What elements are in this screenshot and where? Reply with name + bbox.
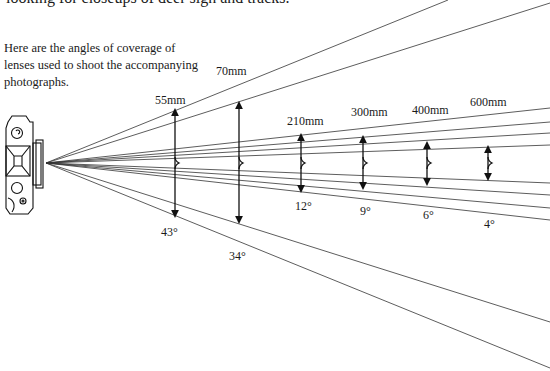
label-210mm: 210mm — [287, 114, 324, 128]
arrow-600mm — [488, 149, 492, 177]
label-angle-6: 6° — [423, 208, 434, 222]
arrow-55mm — [175, 112, 179, 214]
arrow-400mm — [427, 145, 431, 182]
label-angle-9: 9° — [360, 204, 371, 218]
label-angle-34: 34° — [229, 249, 246, 263]
coverage-arrows — [175, 105, 492, 220]
label-400mm: 400mm — [412, 103, 449, 117]
label-55mm: 55mm — [155, 93, 186, 107]
label-300mm: 300mm — [351, 105, 388, 119]
arrow-300mm — [363, 139, 367, 186]
arrow-210mm — [301, 137, 305, 189]
label-angle-12: 12° — [295, 199, 312, 213]
camera-top-view-icon — [6, 116, 43, 214]
coverage-lines — [46, 0, 550, 368]
label-angle-4: 4° — [484, 217, 495, 231]
label-angle-43: 43° — [161, 225, 178, 239]
label-600mm: 600mm — [470, 95, 507, 109]
arrow-70mm — [239, 105, 243, 220]
lens-coverage-diagram: 55mm 70mm 210mm 300mm 400mm 600mm 43° 34… — [0, 0, 550, 371]
label-70mm: 70mm — [216, 64, 247, 78]
